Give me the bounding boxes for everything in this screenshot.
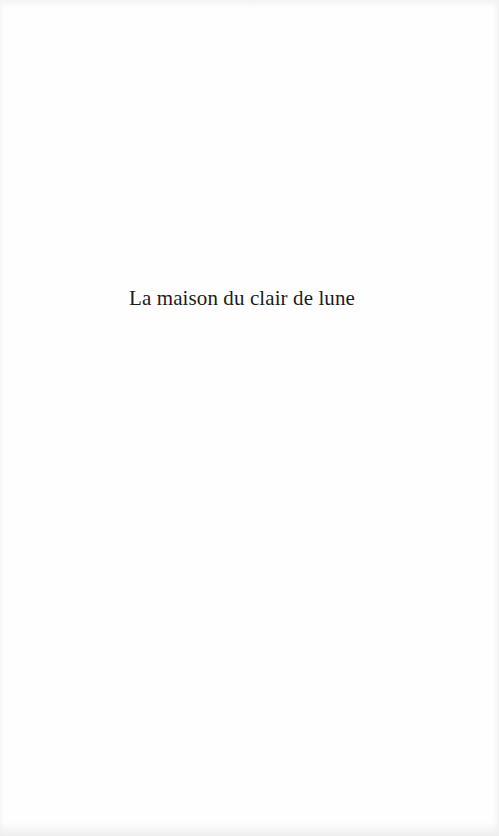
half-title: La maison du clair de lune xyxy=(0,286,484,311)
scan-edge-right xyxy=(493,0,499,836)
scan-edge-top xyxy=(0,0,499,8)
scan-edge-left xyxy=(0,0,4,836)
scan-edge-bottom xyxy=(0,822,499,836)
book-page: La maison du clair de lune xyxy=(0,0,499,836)
